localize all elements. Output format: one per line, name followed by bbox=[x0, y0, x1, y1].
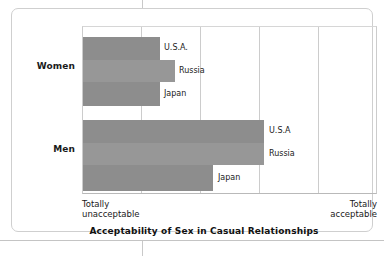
bar-women-russia[interactable] bbox=[83, 60, 175, 82]
bar-label-men-usa: U.S.A bbox=[269, 127, 291, 135]
gridline-3 bbox=[259, 27, 260, 193]
gridline-4 bbox=[318, 27, 319, 193]
bar-men-usa[interactable] bbox=[83, 120, 264, 143]
page-edge-rule-bottom bbox=[0, 240, 384, 241]
plot-area: U.S.A. Russia Japan U.S.A Russia Japan bbox=[82, 26, 377, 194]
bar-women-usa[interactable] bbox=[83, 37, 160, 60]
figure-frame: Women Men U.S.A. Russia Japan U.S.A Russ… bbox=[11, 8, 373, 232]
group-label-men: Men bbox=[12, 144, 75, 154]
bar-men-russia[interactable] bbox=[83, 143, 264, 165]
bar-label-women-usa: U.S.A. bbox=[164, 44, 188, 52]
bar-label-men-japan: Japan bbox=[218, 174, 240, 182]
group-label-women: Women bbox=[12, 61, 75, 71]
chart-title: Acceptability of Sex in Casual Relations… bbox=[24, 226, 384, 236]
bar-men-japan[interactable] bbox=[83, 165, 213, 191]
axis-caption-maximum: Totally acceptable bbox=[267, 199, 377, 219]
bar-label-men-russia: Russia bbox=[269, 150, 295, 158]
axis-caption-minimum: Totally unacceptable bbox=[82, 199, 139, 219]
bar-women-japan[interactable] bbox=[83, 82, 160, 106]
bar-label-women-russia: Russia bbox=[179, 67, 205, 75]
bar-label-women-japan: Japan bbox=[164, 90, 186, 98]
page-edge-rule-bottom-vertical bbox=[142, 241, 143, 256]
